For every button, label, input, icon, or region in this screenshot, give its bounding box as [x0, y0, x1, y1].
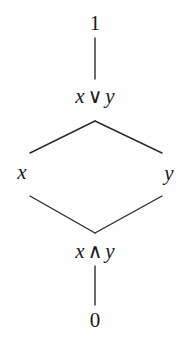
join-right-operand: y — [105, 84, 114, 108]
edge-x-meet — [30, 196, 95, 233]
node-y: y — [164, 163, 173, 184]
edge-join-y — [95, 121, 162, 153]
meet-operator-icon: ∧ — [85, 240, 106, 262]
node-meet-x-and-y: x∧y — [75, 241, 114, 262]
edge-y-meet — [95, 196, 162, 233]
node-x: x — [17, 162, 26, 183]
join-left-operand: x — [75, 84, 84, 108]
join-operator-icon: ∨ — [85, 85, 106, 107]
node-top-one: 1 — [90, 13, 101, 34]
meet-right-operand: y — [105, 239, 114, 263]
hasse-diagram: 1 x∨y x y x∧y 0 — [0, 0, 189, 348]
edge-layer — [0, 0, 189, 348]
edge-join-x — [30, 121, 95, 153]
meet-left-operand: x — [75, 239, 84, 263]
node-join-x-or-y: x∨y — [75, 86, 114, 107]
node-bottom-zero: 0 — [90, 310, 101, 331]
